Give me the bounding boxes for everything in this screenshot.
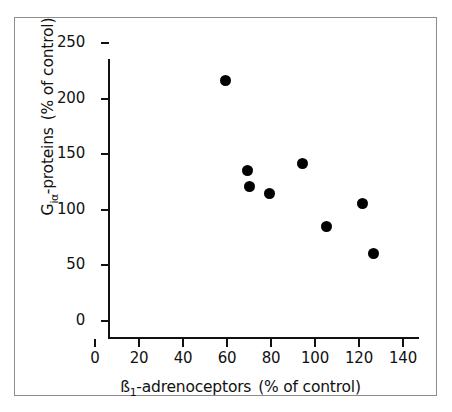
y-tick-mark [101,153,109,155]
plot-area [109,60,417,338]
x-axis-label-rest: -adrenoceptors [136,378,251,396]
y-tick-mark [101,264,109,266]
x-tick-mark [138,339,140,347]
y-tick-mark [101,42,109,44]
y-tick-mark [101,98,109,100]
y-tick-label: 50 [39,255,85,273]
scatter-point [297,158,308,169]
x-tick-mark [182,339,184,347]
x-tick-mark [402,339,404,347]
x-tick-mark [314,339,316,347]
x-axis-label-units: (% of control) [258,378,361,396]
y-tick-mark [101,209,109,211]
scatter-point [244,181,255,192]
x-tick-label: 40 [160,349,206,367]
scatter-point [357,198,368,209]
scatter-point [264,188,275,199]
x-axis-label: ß1-adrenoceptors(% of control) [29,378,452,399]
x-tick-label: 100 [292,349,338,367]
x-tick-mark [358,339,360,347]
scatter-point [220,75,231,86]
figure-border: Giα-proteins(% of control) ß1-adrenocept… [14,17,437,396]
y-tick-label: 250 [39,33,85,51]
y-tick-label: 150 [39,144,85,162]
scatter-point [368,248,379,259]
x-tick-label: 20 [116,349,162,367]
y-tick-label: 0 [39,311,85,329]
x-tick-label: 0 [72,349,118,367]
x-tick-mark [94,339,96,347]
x-tick-label: 60 [204,349,250,367]
x-tick-mark [226,339,228,347]
x-tick-mark [270,339,272,347]
x-axis-label-base: ß [120,378,130,396]
scatter-point [242,165,253,176]
y-tick-label: 100 [39,200,85,218]
y-tick-label: 200 [39,89,85,107]
x-tick-label: 140 [380,349,426,367]
x-tick-label: 80 [248,349,294,367]
x-tick-label: 120 [336,349,382,367]
scatter-point [321,221,332,232]
figure-container: Giα-proteins(% of control) ß1-adrenocept… [0,0,452,412]
y-tick-mark [101,320,109,322]
